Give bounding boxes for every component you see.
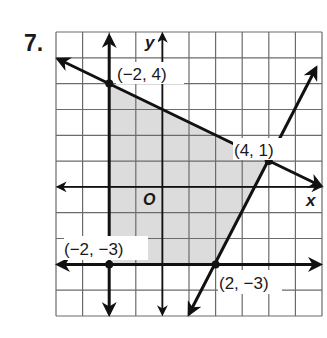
vertex-point xyxy=(105,80,113,88)
vertex-point xyxy=(212,260,220,268)
y-axis-label: y xyxy=(144,33,156,52)
vertex-label: (4, 1) xyxy=(234,141,274,160)
vertex-label: (−2, 4) xyxy=(117,65,167,84)
coordinate-graph: (−2, 4) (4, 1) (−2, −3) (2, −3) y x O xyxy=(0,0,327,338)
vertex-label: (−2, −3) xyxy=(64,240,124,259)
x-axis-label: x xyxy=(305,191,317,210)
grid xyxy=(56,32,322,316)
origin-label: O xyxy=(143,191,156,208)
vertex-label: (2, −3) xyxy=(219,274,269,293)
vertex-point xyxy=(105,260,113,268)
